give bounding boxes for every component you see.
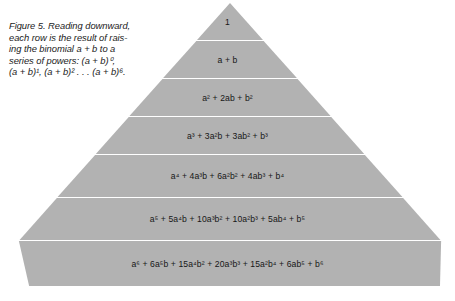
- pyramid-row-power-3: a³ + 3a²b + 3ab² + b³: [0, 117, 455, 154]
- pyramid-row-expression: a + b: [218, 55, 238, 65]
- binomial-pyramid: 1 a + b a² + 2ab + b² a³ + 3a²b + 3ab² +…: [0, 0, 455, 301]
- pyramid-row-expression: a² + 2ab + b²: [202, 93, 253, 103]
- pyramid-row-power-5: a⁵ + 5a⁴b + 10a³b² + 10a²b³ + 5ab⁴ + b⁵: [0, 198, 455, 240]
- pyramid-row-power-4: a⁴ + 4a³b + 6a²b² + 4ab³ + b⁴: [0, 155, 455, 197]
- pyramid-row-expression: 1: [225, 17, 230, 27]
- pyramid-row-power-6: a⁶ + 6a⁵b + 15a⁴b² + 20a³b³ + 15a²b⁴ + 6…: [0, 241, 455, 286]
- pyramid-row-power-1: a + b: [0, 41, 455, 78]
- pyramid-row-power-2: a² + 2ab + b²: [0, 79, 455, 116]
- pyramid-row-power-0: 1: [0, 3, 455, 40]
- pyramid-row-expression: a⁶ + 6a⁵b + 15a⁴b² + 20a³b³ + 15a²b⁴ + 6…: [131, 259, 323, 269]
- figure-panel: Figure 5. Reading downward, each row is …: [0, 0, 455, 301]
- pyramid-row-expression: a⁵ + 5a⁴b + 10a³b² + 10a²b³ + 5ab⁴ + b⁵: [150, 214, 305, 224]
- pyramid-row-expression: a³ + 3a²b + 3ab² + b³: [187, 131, 268, 141]
- pyramid-row-expression: a⁴ + 4a³b + 6a²b² + 4ab³ + b⁴: [171, 171, 284, 181]
